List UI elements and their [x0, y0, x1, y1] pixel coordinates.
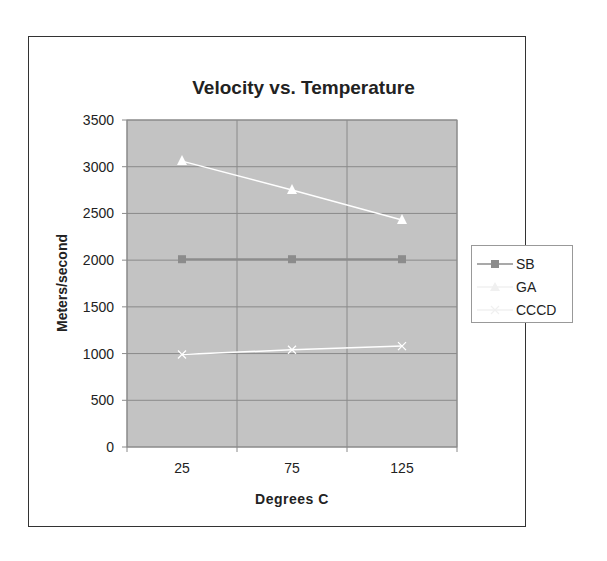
y-tick-label: 1000	[83, 346, 114, 362]
legend-label: GA	[516, 279, 536, 295]
x-tick-label: 75	[284, 460, 300, 476]
legend: SB GA CCCD	[471, 245, 573, 323]
x-marker-icon	[477, 300, 515, 320]
y-axis-label: Meters/second	[54, 234, 70, 332]
x-tick-label: 125	[390, 460, 413, 476]
legend-item-ga: GA	[472, 277, 572, 299]
y-tick-label: 3000	[83, 159, 114, 175]
y-tick-label: 3500	[83, 112, 114, 128]
legend-item-cccd: CCCD	[472, 300, 572, 322]
x-axis-label: Degrees C	[255, 491, 329, 507]
triangle-marker-icon	[477, 277, 515, 297]
square-marker-icon	[477, 254, 515, 274]
legend-label: SB	[516, 256, 535, 272]
y-tick-label: 500	[91, 392, 114, 408]
legend-label: CCCD	[516, 302, 556, 318]
y-tick-label: 2000	[83, 252, 114, 268]
y-tick-label: 0	[106, 439, 114, 455]
x-tick-label: 25	[174, 460, 190, 476]
plot-background	[127, 120, 457, 447]
y-tick-label: 1500	[83, 299, 114, 315]
y-tick-label: 2500	[83, 205, 114, 221]
legend-item-sb: SB	[472, 254, 572, 276]
